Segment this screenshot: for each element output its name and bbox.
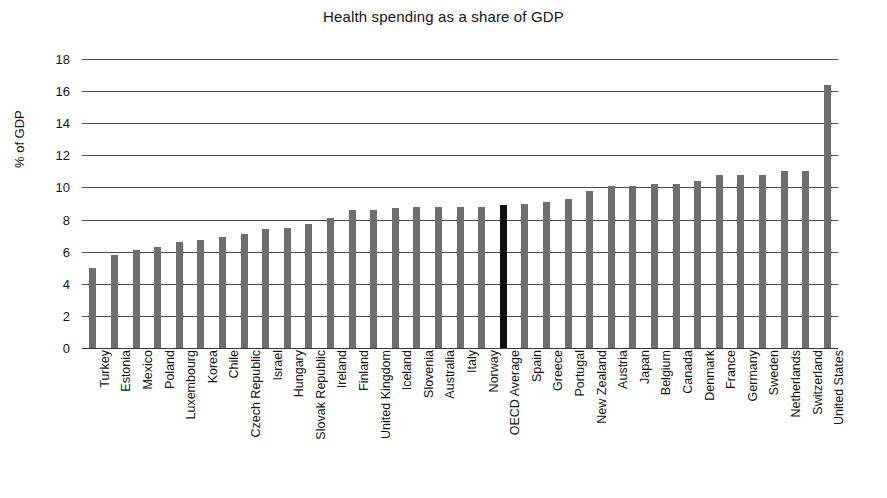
bar [651,184,658,348]
chart-title: Health spending as a share of GDP [0,8,887,25]
bar [457,207,464,348]
y-axis-tick-label: 14 [56,116,70,131]
y-axis-tick-label: 6 [63,244,70,259]
bar [435,207,442,348]
bar [111,255,118,348]
x-axis-tick-label: United States [832,350,846,498]
x-axis-tick-label: Canada [681,350,695,498]
bar [392,208,399,348]
bar [500,205,507,348]
x-axis-tick-label: Ireland [335,350,349,498]
x-axis-tick-label: United Kingdom [379,350,393,498]
bar [565,199,572,348]
x-axis-tick-label: Slovak Republic [314,350,328,498]
bar [824,85,831,348]
x-axis-tick-label: Denmark [703,350,717,498]
x-axis-tick-label: Hungary [292,350,306,498]
x-axis-tick-label: Turkey [98,350,112,498]
bar [608,186,615,348]
x-axis-tick-label: Japan [638,350,652,498]
bar [716,175,723,348]
x-axis-tick-label: Germany [746,350,760,498]
health-spending-bar-chart: Health spending as a share of GDP % of G… [0,0,887,498]
y-axis-tick-label: 0 [63,341,70,356]
bar [89,268,96,348]
gridline [82,348,838,349]
x-axis-tick-label: Mexico [141,350,155,498]
y-axis-tick-label: 16 [56,84,70,99]
y-axis-tick-label: 12 [56,148,70,163]
x-axis-tick-label: Netherlands [789,350,803,498]
x-axis-tick-label: Belgium [659,350,673,498]
x-axis-tick-label: Finland [357,350,371,498]
x-axis-tick-label: Korea [206,350,220,498]
bar [197,240,204,348]
bar [154,247,161,348]
bar [241,234,248,348]
bar [694,181,701,348]
x-axis-tick-label: France [724,350,738,498]
x-axis-tick-label: Spain [530,350,544,498]
y-axis-tick-label: 8 [63,212,70,227]
bar [737,175,744,348]
x-axis-tick-label: New Zealand [595,350,609,498]
bar [586,191,593,348]
x-axis-tick-label: Poland [163,350,177,498]
y-axis-tick-label: 10 [56,180,70,195]
y-axis-tick-label: 18 [56,52,70,67]
y-axis-tick-label: 4 [63,276,70,291]
x-axis-tick-label: Italy [465,350,479,498]
x-axis-tick-label: Chile [227,350,241,498]
bar [284,228,291,348]
bar [219,237,226,348]
bar [629,186,636,348]
x-axis-tick-label: Czech Republic [249,350,263,498]
bar [759,175,766,348]
bar [349,210,356,348]
bar [370,210,377,348]
y-axis-tick-label: 2 [63,308,70,323]
bar [133,250,140,348]
x-axis-tick-label: Iceland [400,350,414,498]
bar [413,207,420,348]
x-axis-tick-label: Slovenia [422,350,436,498]
x-axis-tick-label: Austria [616,350,630,498]
x-axis-tick-labels: TurkeyEstoniaMexicoPolandLuxembourgKorea… [82,350,838,498]
bar [305,224,312,348]
bar [802,171,809,348]
bar [327,218,334,348]
x-axis-tick-label: OECD Average [508,350,522,498]
bar [673,184,680,348]
x-axis-tick-label: Portugal [573,350,587,498]
x-axis-tick-label: Sweden [767,350,781,498]
x-axis-tick-label: Norway [487,350,501,498]
bar [262,229,269,348]
bar [176,242,183,348]
bar-series [82,59,838,348]
bar [521,204,528,349]
x-axis-tick-label: Switzerland [811,350,825,498]
x-axis-tick-label: Australia [443,350,457,498]
x-axis-tick-label: Greece [551,350,565,498]
x-axis-tick-label: Estonia [119,350,133,498]
bar [543,202,550,348]
x-axis-tick-label: Luxembourg [184,350,198,498]
y-axis-tick-labels: 024681012141618 [0,59,82,349]
x-axis-tick-label: Israel [271,350,285,498]
bar [478,207,485,348]
bar [781,171,788,348]
